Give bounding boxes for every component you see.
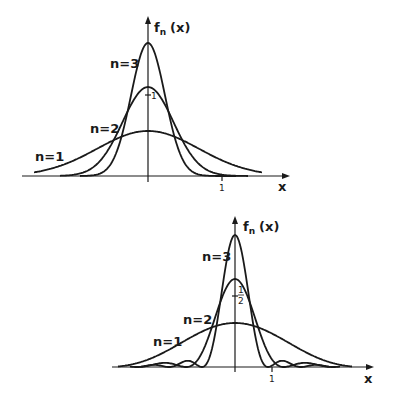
top-x-tick-label: 1 — [219, 183, 225, 193]
svg-text:2: 2 — [238, 296, 244, 306]
bottom-figure: fn(x) x 1 1 2 n=1 n=2 n=3 — [112, 216, 374, 386]
bottom-y-axis-arrow-icon — [232, 216, 238, 224]
bottom-x-axis-label: x — [364, 371, 373, 386]
top-x-axis-label: x — [278, 179, 287, 194]
top-y-axis-arrow-icon — [145, 16, 151, 24]
bottom-x-axis-arrow-icon — [366, 364, 374, 370]
diagram-canvas: fn(x) x 1 1 n=1 n=2 n=3 fn(x) x 1 1 2 n=… — [0, 0, 396, 400]
top-label-n1: n=1 — [35, 149, 64, 164]
svg-text:1: 1 — [238, 285, 244, 295]
bottom-label-n1: n=1 — [153, 334, 182, 349]
top-figure: fn(x) x 1 1 n=1 n=2 n=3 — [22, 16, 290, 194]
bottom-y-axis-label: fn(x) — [243, 219, 279, 236]
top-y-tick-label: 1 — [151, 91, 157, 101]
top-label-n2: n=2 — [90, 121, 119, 136]
bottom-label-n3: n=3 — [202, 249, 231, 264]
top-y-axis-label: fn(x) — [154, 20, 190, 37]
bottom-y-tick-label: 1 2 — [238, 285, 244, 306]
bottom-x-tick-label: 1 — [269, 374, 275, 384]
bottom-label-n2: n=2 — [183, 312, 212, 327]
top-label-n3: n=3 — [110, 56, 139, 71]
